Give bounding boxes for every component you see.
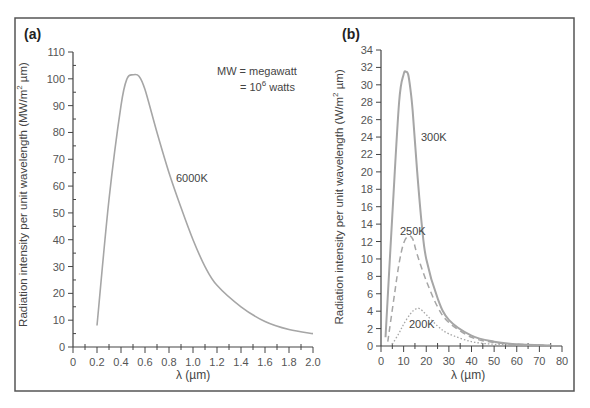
y-tick-label: 32 — [361, 61, 373, 73]
x-tick-label: 1.8 — [281, 356, 296, 368]
y-tick-label: 50 — [53, 207, 65, 219]
y-tick-label: 30 — [361, 79, 373, 91]
x-tick-label: 0.6 — [137, 356, 152, 368]
y-tick-label: 0 — [59, 341, 65, 353]
x-tick-label: 1.4 — [233, 356, 248, 368]
y-tick-label: 24 — [361, 131, 373, 143]
curve-label-250k: 250K — [400, 225, 426, 237]
y-tick-label: 60 — [53, 180, 65, 192]
megawatt-note: MW = megawatt — [217, 65, 297, 77]
panel-b-ylabel-text: Radiation intensity per unit wavelength … — [333, 97, 345, 325]
curve-label-300k: 300K — [421, 131, 447, 143]
y-tick-label: 20 — [53, 287, 65, 299]
curve-300k — [386, 71, 551, 345]
panel-a-ylabel-text: Radiation intensity per unit wavelength … — [17, 90, 29, 327]
curve-6000k — [97, 74, 313, 333]
watts-note-pre: = 10 — [240, 81, 262, 93]
y-tick-label: 100 — [47, 73, 65, 85]
y-tick-label: 90 — [53, 100, 65, 112]
x-tick-label: 1.2 — [209, 356, 224, 368]
x-tick-label: 20 — [420, 355, 432, 367]
x-tick-label: 2.0 — [305, 356, 320, 368]
x-tick-label: 0 — [378, 355, 384, 367]
panel-a-ylabel: Radiation intensity per unit wavelength … — [15, 67, 29, 327]
y-tick-label: 14 — [361, 218, 373, 230]
y-tick-label: 34 — [361, 44, 373, 56]
x-tick-label: 70 — [533, 355, 545, 367]
x-tick-label: 1.6 — [257, 356, 272, 368]
y-tick-label: 22 — [361, 148, 373, 160]
y-tick-label: 12 — [361, 236, 373, 248]
y-tick-label: 40 — [53, 234, 65, 246]
y-tick-label: 30 — [53, 261, 65, 273]
y-tick-label: 70 — [53, 153, 65, 165]
x-tick-label: 0.4 — [113, 356, 128, 368]
x-tick-label: 0.8 — [161, 356, 176, 368]
x-tick-label: 0 — [70, 356, 76, 368]
y-tick-label: 0 — [367, 340, 373, 352]
x-tick-label: 50 — [488, 355, 500, 367]
y-tick-label: 28 — [361, 96, 373, 108]
y-tick-label: 16 — [361, 201, 373, 213]
panel-a-ylabel-end: µm) — [17, 62, 29, 85]
x-tick-label: 60 — [511, 355, 523, 367]
y-tick-label: 110 — [47, 46, 65, 58]
x-tick-label: 1.0 — [185, 356, 200, 368]
figure-canvas: 010203040506070809010011000.20.40.60.81.… — [0, 0, 590, 408]
x-tick-label: 0.2 — [89, 356, 104, 368]
x-tick-label: 30 — [443, 355, 455, 367]
y-tick-label: 4 — [367, 305, 373, 317]
y-tick-label: 26 — [361, 114, 373, 126]
y-tick-label: 20 — [361, 166, 373, 178]
panel-a-ylabel-sup: 2 — [15, 85, 24, 89]
y-tick-label: 18 — [361, 183, 373, 195]
x-tick-label: 80 — [556, 355, 568, 367]
panel-b-ylabel-sup: 2 — [331, 93, 340, 97]
panel-a-xlabel: λ (µm) — [176, 368, 210, 382]
curve-label-200k: 200K — [409, 318, 435, 330]
y-tick-label: 10 — [361, 253, 373, 265]
panel-b-xlabel: λ (µm) — [451, 368, 485, 382]
panel-a-axes: 010203040506070809010011000.20.40.60.81.… — [47, 46, 321, 368]
curves — [97, 71, 551, 346]
panel-b-ylabel-end: µm) — [333, 69, 345, 92]
curve-label-6000k: 6000K — [176, 172, 208, 184]
panel-b-label: (b) — [342, 26, 360, 42]
y-tick-label: 10 — [53, 314, 65, 326]
y-tick-label: 80 — [53, 126, 65, 138]
y-tick-label: 8 — [367, 270, 373, 282]
x-tick-label: 40 — [465, 355, 477, 367]
y-tick-label: 6 — [367, 288, 373, 300]
x-tick-label: 10 — [398, 355, 410, 367]
panel-b-axes: 0246810121416182022242628303234010203040… — [361, 44, 568, 367]
panel-b-ylabel: Radiation intensity per unit wavelength … — [331, 67, 345, 327]
panel-a-label: (a) — [24, 26, 41, 42]
watts-note: = 106 watts — [240, 79, 295, 93]
y-tick-label: 2 — [367, 323, 373, 335]
watts-note-post: watts — [266, 81, 295, 93]
